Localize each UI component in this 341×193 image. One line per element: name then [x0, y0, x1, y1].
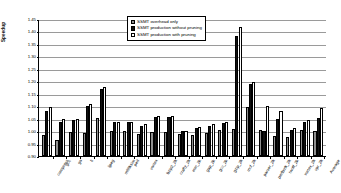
y-tick-label: 1.40 [12, 30, 36, 34]
bar [49, 107, 52, 156]
x-tick-label: crafty_2k [179, 159, 192, 176]
y-tick-label: 1.15 [12, 93, 36, 97]
x-axis-tick-labels: compressgccgoliijpegm88ksimperlvortexbzi… [38, 159, 326, 193]
bar [144, 124, 147, 156]
legend-item-1: SSMT production without pruning [131, 25, 202, 32]
bar [171, 116, 174, 156]
bar [212, 124, 215, 156]
y-tick-label: 0.90 [12, 155, 36, 159]
bar-group [217, 20, 231, 156]
bar-group [244, 20, 258, 156]
y-tick-label: 1.00 [12, 130, 36, 134]
bar [184, 131, 187, 156]
bar [279, 111, 282, 156]
x-tick-label: gzip_2k [233, 159, 244, 173]
bar-group [81, 20, 95, 156]
bar [252, 82, 255, 156]
legend-item-0: SSMT overhead only [131, 19, 202, 26]
y-tick-label: 1.25 [12, 68, 36, 72]
y-tick-label: 1.30 [12, 55, 36, 59]
bar [89, 104, 92, 156]
legend-label-1: SSMT production without pruning [137, 26, 202, 30]
legend-swatch-gray-icon [131, 20, 135, 24]
x-tick-label: perl [133, 159, 140, 167]
chart-legend: SSMT overhead only SSMT production witho… [127, 16, 206, 41]
bar-group [271, 20, 285, 156]
bar-group [108, 20, 122, 156]
x-tick-label: ijpeg [107, 159, 115, 169]
x-tick-label: bzip2_2k [165, 159, 177, 175]
bar [293, 128, 296, 156]
y-tick-label: 0.95 [12, 142, 36, 146]
x-tick-label: mcf_2k [246, 159, 257, 173]
x-tick-label: parser_2k [262, 159, 275, 177]
bar [117, 122, 120, 156]
x-tick-label: eon_2k [191, 159, 202, 173]
x-tick-label: gcc_2k [219, 159, 230, 172]
y-tick-label: 1.20 [12, 80, 36, 84]
bar [225, 122, 228, 156]
x-tick-label: go [77, 159, 83, 165]
legend-label-2: SSMT production with pruning [137, 33, 196, 37]
bar [62, 119, 65, 156]
bar-group [284, 20, 298, 156]
bar-group [312, 20, 326, 156]
bar [157, 116, 160, 156]
x-tick-label: gap_2k [205, 159, 216, 173]
bar [130, 122, 133, 156]
bar [266, 106, 269, 156]
x-tick-label: Average [329, 159, 341, 174]
x-tick-label: li [90, 159, 95, 163]
y-tick-label: 1.45 [12, 18, 36, 22]
bar-group [257, 20, 271, 156]
bar [76, 119, 79, 156]
bar [320, 108, 323, 156]
bar-group [67, 20, 81, 156]
x-tick-label: vortex [149, 159, 159, 171]
y-tick-label: 1.10 [12, 105, 36, 109]
legend-item-2: SSMT production with pruning [131, 32, 202, 39]
legend-swatch-black-icon [131, 26, 135, 30]
bar-group [230, 20, 244, 156]
y-axis-title: Speedup [1, 2, 6, 62]
y-tick-label: 1.35 [12, 43, 36, 47]
bar-group [40, 20, 54, 156]
bar [307, 120, 310, 156]
bar [103, 87, 106, 156]
legend-label-0: SSMT overhead only [137, 20, 178, 24]
bar-group [94, 20, 108, 156]
y-tick-mark [37, 157, 40, 158]
bar [198, 127, 201, 156]
bar-group [54, 20, 68, 156]
legend-swatch-white-icon [131, 33, 135, 37]
bar-group [298, 20, 312, 156]
bar [239, 27, 242, 156]
y-tick-label: 1.05 [12, 117, 36, 121]
